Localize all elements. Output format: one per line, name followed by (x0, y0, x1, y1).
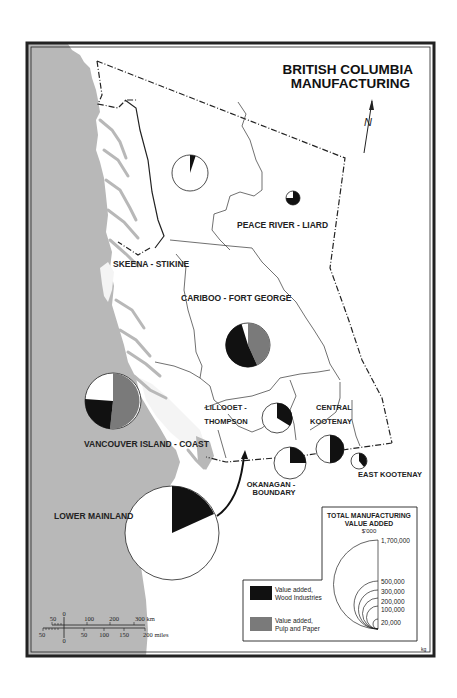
pie-cariboo-fort-george (225, 323, 270, 367)
pie-lower-mainland (125, 486, 219, 580)
size-legend-title-3: $'000 (362, 528, 377, 534)
scale-mi-150: 150 (119, 631, 129, 638)
north-label: N (364, 116, 372, 128)
cartographer-credit: kg (421, 646, 427, 652)
pie-vancouver-island-coast (85, 373, 141, 429)
swatch-pulp-paper (250, 617, 272, 631)
swatch-wood-industries (250, 586, 272, 600)
legend-wood-label-2: Wood Industries (275, 594, 323, 601)
size-label-100000: 100,000 (381, 606, 405, 613)
pie-central-kootenay (316, 435, 344, 463)
size-label-500000: 500,000 (381, 578, 405, 585)
pie-skeena-stikine (172, 155, 208, 191)
scale-km-0: 0 (62, 610, 65, 617)
label-lillooet-thompson-1: LILLOOET - (205, 403, 247, 412)
size-label-20000: 20,000 (381, 619, 401, 626)
scale-mi-50: 50 (39, 631, 46, 638)
label-peace-river-liard: PEACE RIVER - LIARD (237, 220, 328, 230)
scale-km-50: 50 (50, 615, 57, 622)
scale-mi-0: 0 (62, 637, 65, 644)
label-skeena-stikine: SKEENA - STIKINE (113, 259, 190, 269)
label-lillooet-thompson-2: THOMPSON (204, 417, 247, 426)
label-central-kootenay-2: KOOTENAY (310, 417, 352, 426)
legend-pulp-label-1: Value added, (275, 617, 313, 624)
legend-pulp-label-2: Pulp and Paper (275, 625, 321, 633)
pie-lillooet-thompson (262, 403, 292, 433)
label-lower-mainland: LOWER MAINLAND (54, 511, 133, 521)
scale-mi-50b: 50 (81, 631, 88, 638)
title-line-1: BRITISH COLUMBIA (283, 62, 414, 77)
label-okanagan-boundary-2: BOUNDARY (252, 488, 295, 497)
legend-wood-label-1: Value added, (275, 586, 313, 593)
size-label-300000: 300,000 (381, 588, 405, 595)
scale-mi-200: 200 miles (143, 631, 169, 638)
size-legend-title-1: TOTAL MANUFACTURING (327, 512, 411, 519)
label-east-kootenay: EAST KOOTENAY (358, 470, 422, 479)
label-central-kootenay-1: CENTRAL (316, 403, 352, 412)
pie-peace-river-liard (286, 191, 300, 205)
scale-km-200: 200 (109, 615, 119, 622)
scale-km-100: 100 (84, 615, 94, 622)
label-cariboo-fort-george: CARIBOO - FORT GEORGE (181, 293, 292, 303)
title-line-2: MANUFACTURING (291, 76, 410, 91)
scale-mi-100: 100 (99, 631, 109, 638)
size-label-200000: 200,000 (381, 598, 405, 605)
size-label-1700000: 1,700,000 (381, 537, 410, 544)
pie-east-kootenay (351, 453, 367, 469)
label-vancouver-island-coast: VANCOUVER ISLAND - COAST (84, 439, 210, 449)
scale-km-300: 300 km (135, 615, 155, 622)
bc-manufacturing-map: BRITISH COLUMBIA MANUFACTURING N (0, 0, 457, 698)
size-legend-title-2: VALUE ADDED (345, 520, 393, 527)
pie-okanagan-boundary (274, 447, 306, 479)
